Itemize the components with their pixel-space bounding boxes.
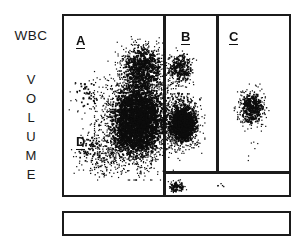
scatter-plot-panel: ABCD [62,14,291,197]
gate-divider-bottom-strip [163,171,291,174]
volume-axis-letter-e: E [0,168,62,181]
region-label-d: D [76,135,85,150]
gate-divider-b-c [216,16,219,173]
volume-axis-letter-u: U [0,130,62,143]
wbc-axis-title: WBC [0,29,62,43]
volume-axis-letter-l: L [0,111,62,124]
region-label-b: B [181,30,190,45]
volume-axis-letter-v: V [0,73,62,86]
scatter-plot-frame: ABCD [62,14,291,236]
volume-axis-letter-m: M [0,149,62,162]
gate-divider-a-b [163,16,166,195]
plot-footer-panel [62,211,291,236]
volume-axis-letter-o: O [0,92,62,105]
axis-label-column: WBC VOLUME [0,0,62,246]
region-label-a: A [76,34,85,49]
region-label-c: C [229,30,238,45]
scatter-points-canvas [64,16,288,194]
